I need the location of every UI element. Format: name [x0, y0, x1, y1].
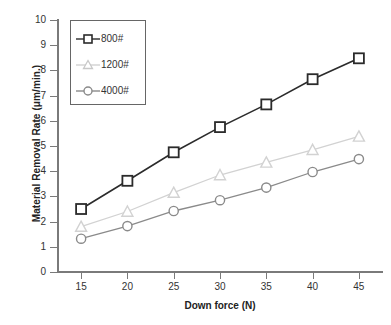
- y-tick-label: 6: [18, 116, 46, 126]
- y-tick-mark: [50, 70, 57, 71]
- legend-item-1200: 1200#: [71, 52, 145, 78]
- x-axis-title: Down force (N): [55, 300, 385, 311]
- legend-key-circle-icon: [75, 84, 101, 98]
- data-point-marker: [215, 170, 226, 180]
- y-tick-mark: [50, 247, 57, 248]
- y-tick-mark: [50, 146, 57, 147]
- x-tick-label: 45: [344, 282, 374, 292]
- x-tick-mark: [174, 273, 175, 279]
- legend-item-800: 800#: [71, 26, 145, 52]
- y-tick-mark: [50, 45, 57, 46]
- y-tick-mark: [50, 96, 57, 97]
- data-point-marker: [76, 221, 87, 231]
- x-tick-label: 35: [251, 282, 281, 292]
- y-axis-line: [57, 19, 59, 273]
- x-tick-mark: [220, 273, 221, 279]
- y-tick-mark: [50, 272, 57, 273]
- y-tick-label: 7: [18, 91, 46, 101]
- x-tick-label: 30: [205, 282, 235, 292]
- y-tick-mark: [50, 171, 57, 172]
- series-line: [81, 159, 359, 239]
- data-point-marker: [354, 53, 364, 63]
- data-point-marker: [215, 122, 225, 132]
- data-point-marker: [308, 167, 317, 176]
- y-tick-mark: [50, 20, 57, 21]
- y-tick-label: 3: [18, 191, 46, 201]
- series-line: [81, 136, 359, 226]
- data-point-marker: [354, 155, 363, 164]
- data-point-marker: [261, 157, 272, 167]
- y-tick-label: 9: [18, 40, 46, 50]
- legend-label-800: 800#: [101, 34, 123, 44]
- y-tick-label: 4: [18, 166, 46, 176]
- data-point-marker: [168, 187, 179, 197]
- data-point-marker: [169, 147, 179, 157]
- chart-figure: Material Removal Rate (μm/min.) 01234567…: [0, 0, 391, 325]
- data-point-marker: [123, 222, 132, 231]
- legend-key-triangle-icon: [75, 58, 101, 72]
- data-point-marker: [353, 131, 364, 141]
- y-tick-label: 0: [18, 267, 46, 277]
- data-point-marker: [169, 206, 178, 215]
- data-point-marker: [307, 144, 318, 154]
- x-tick-label: 25: [159, 282, 189, 292]
- y-tick-label: 1: [18, 242, 46, 252]
- data-point-marker: [122, 176, 132, 186]
- legend-label-4000: 4000#: [101, 86, 129, 96]
- data-point-marker: [261, 99, 271, 109]
- data-point-marker: [77, 234, 86, 243]
- y-tick-label: 8: [18, 65, 46, 75]
- x-tick-mark: [359, 273, 360, 279]
- data-point-marker: [262, 183, 271, 192]
- x-tick-mark: [127, 273, 128, 279]
- data-point-marker: [122, 206, 133, 216]
- x-tick-label: 15: [66, 282, 96, 292]
- series-4000: [77, 155, 364, 244]
- y-tick-label: 10: [18, 15, 46, 25]
- legend-key-square-icon: [75, 32, 101, 46]
- data-point-marker: [215, 196, 224, 205]
- data-point-marker: [76, 204, 86, 214]
- series-1200: [76, 131, 365, 231]
- y-tick-label: 2: [18, 217, 46, 227]
- x-tick-mark: [313, 273, 314, 279]
- chart-legend: 800# 1200# 4000#: [70, 20, 146, 105]
- legend-label-1200: 1200#: [101, 60, 129, 70]
- data-point-marker: [308, 74, 318, 84]
- legend-item-4000: 4000#: [71, 78, 145, 104]
- y-tick-mark: [50, 222, 57, 223]
- x-tick-label: 40: [298, 282, 328, 292]
- y-tick-mark: [50, 196, 57, 197]
- x-tick-label: 20: [112, 282, 142, 292]
- y-tick-label: 5: [18, 141, 46, 151]
- y-tick-mark: [50, 121, 57, 122]
- x-tick-mark: [81, 273, 82, 279]
- x-tick-mark: [266, 273, 267, 279]
